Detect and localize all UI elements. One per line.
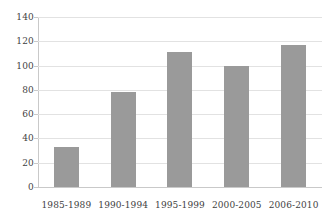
x-label-slot: 1985-1989 [38, 193, 95, 212]
y-tick-label-60: 60 [4, 110, 34, 119]
bar[interactable] [111, 92, 136, 187]
bar-slot [95, 17, 152, 187]
bar-slot [265, 17, 322, 187]
y-tick-mark-140 [34, 17, 38, 18]
bars-group [38, 17, 322, 187]
x-tick-label: 1985-1989 [42, 200, 92, 210]
y-tick-label-40: 40 [4, 134, 34, 143]
bar[interactable] [167, 52, 192, 187]
y-tick-mark-100 [34, 66, 38, 67]
x-label-slot: 2000-2005 [208, 193, 265, 212]
x-axis-tick-labels: 1985-19891990-19941995-19992000-20052006… [38, 193, 322, 212]
bar-chart: 020406080100120140 1985-19891990-1994199… [0, 0, 328, 218]
y-tick-label-100: 100 [4, 62, 34, 71]
x-tick-label: 1995-1999 [155, 200, 205, 210]
y-tick-mark-0 [34, 187, 38, 188]
y-tick-mark-60 [34, 114, 38, 115]
bar[interactable] [281, 45, 306, 187]
bar-slot [38, 17, 95, 187]
x-label-slot: 1995-1999 [152, 193, 209, 212]
bar[interactable] [54, 147, 79, 187]
y-tick-mark-20 [34, 163, 38, 164]
y-tick-label-120: 120 [4, 37, 34, 46]
plot-area [38, 17, 322, 187]
y-tick-mark-80 [34, 90, 38, 91]
x-label-slot: 1990-1994 [95, 193, 152, 212]
x-tick-label: 2006-2010 [269, 200, 319, 210]
bar[interactable] [224, 66, 249, 187]
y-tick-label-140: 140 [4, 13, 34, 22]
y-tick-label-80: 80 [4, 86, 34, 95]
x-tick-label: 1990-1994 [98, 200, 148, 210]
bar-slot [152, 17, 209, 187]
gridline-0 [38, 187, 322, 188]
y-tick-mark-120 [34, 41, 38, 42]
x-tick-label: 2000-2005 [212, 200, 262, 210]
y-tick-mark-40 [34, 138, 38, 139]
y-tick-label-20: 20 [4, 159, 34, 168]
x-label-slot: 2006-2010 [265, 193, 322, 212]
y-tick-label-0: 0 [4, 183, 34, 192]
bar-slot [208, 17, 265, 187]
